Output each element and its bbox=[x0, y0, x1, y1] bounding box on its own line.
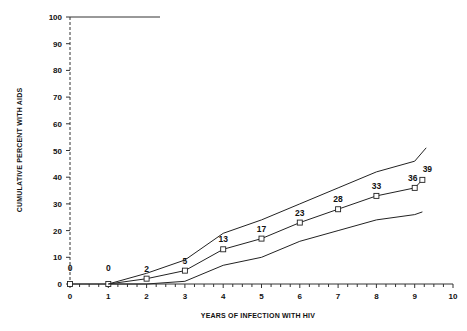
y-tick-label: 60 bbox=[53, 120, 62, 129]
aids-cumulative-chart: 0102030405060708090100 012345678910 CUMU… bbox=[0, 0, 467, 331]
x-tick-label: 0 bbox=[68, 292, 73, 301]
data-label: 17 bbox=[257, 224, 267, 234]
data-label: 0 bbox=[106, 263, 111, 273]
y-axis-title: CUMULATIVE PERCENT WITH AIDS bbox=[16, 88, 23, 213]
data-point-marker bbox=[336, 207, 341, 212]
y-tick-label: 50 bbox=[53, 147, 62, 156]
y-tick-label: 0 bbox=[58, 280, 63, 289]
data-point-marker bbox=[144, 276, 149, 281]
x-tick-label: 3 bbox=[183, 292, 188, 301]
x-tick-label: 7 bbox=[336, 292, 341, 301]
x-tick-label: 4 bbox=[221, 292, 226, 301]
series-line-0 bbox=[70, 180, 422, 284]
data-point-marker bbox=[374, 193, 379, 198]
data-point-marker bbox=[412, 185, 417, 190]
x-tick-label: 2 bbox=[144, 292, 149, 301]
data-label: 28 bbox=[333, 194, 343, 204]
data-point-marker bbox=[259, 236, 264, 241]
x-axis-title: YEARS OF INFECTION WITH HIV bbox=[201, 312, 315, 319]
data-label: 0 bbox=[68, 263, 73, 273]
data-label: 23 bbox=[295, 208, 305, 218]
y-tick-label: 30 bbox=[53, 200, 62, 209]
y-tick-label: 10 bbox=[53, 253, 62, 262]
y-tick-label: 80 bbox=[53, 66, 62, 75]
data-point-marker bbox=[68, 282, 73, 287]
data-label: 33 bbox=[372, 181, 382, 191]
data-point-marker bbox=[297, 220, 302, 225]
x-tick-label: 1 bbox=[106, 292, 111, 301]
data-label: 39 bbox=[423, 164, 433, 174]
y-tick-label: 20 bbox=[53, 227, 62, 236]
data-label: 36 bbox=[408, 173, 418, 183]
x-tick-label: 10 bbox=[449, 292, 458, 301]
series-layer: 002513172328333639 bbox=[68, 148, 433, 287]
data-point-marker bbox=[182, 268, 187, 273]
data-point-marker bbox=[221, 247, 226, 252]
data-point-marker bbox=[420, 177, 425, 182]
x-tick-label: 8 bbox=[374, 292, 379, 301]
x-tick-label: 9 bbox=[412, 292, 417, 301]
y-axis: 0102030405060708090100 bbox=[49, 13, 160, 289]
x-tick-label: 6 bbox=[298, 292, 303, 301]
x-axis: 012345678910 bbox=[68, 284, 458, 301]
y-tick-label: 40 bbox=[53, 173, 62, 182]
y-tick-label: 70 bbox=[53, 93, 62, 102]
y-tick-label: 90 bbox=[53, 40, 62, 49]
series-line-1 bbox=[108, 148, 426, 284]
y-tick-label: 100 bbox=[49, 13, 63, 22]
x-tick-label: 5 bbox=[259, 292, 264, 301]
